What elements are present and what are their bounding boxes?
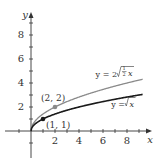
x-axis-arrow-icon [146, 129, 152, 134]
x-tick-label: 4 [76, 135, 82, 146]
x-axis-label: x [147, 134, 153, 145]
y-tick-label: 6 [18, 53, 24, 64]
x-tick-label: 6 [100, 135, 106, 146]
x-tick-label: 2 [52, 135, 58, 146]
point-lower-label: (1, 1) [46, 120, 70, 130]
svg-text:x: x [130, 100, 135, 109]
y-tick-label: 2 [18, 101, 24, 112]
curve-lower-label: y = x [110, 98, 135, 110]
y-axis-label: y [21, 9, 28, 20]
svg-text:x: x [128, 69, 133, 78]
y-tick-label: 4 [18, 77, 24, 88]
point-upper [53, 105, 58, 110]
curve-upper-label: y = 2 1 2 x [95, 65, 134, 79]
y-tick-label: 8 [18, 29, 24, 40]
chart: 2 4 6 8 2 4 6 8 x y (2, 2) (1, 1) y = 2 … [0, 0, 159, 164]
point-upper-label: (2, 2) [41, 93, 65, 103]
svg-text:y = 2: y = 2 [95, 70, 117, 79]
svg-text:2: 2 [122, 71, 125, 77]
point-lower [41, 117, 46, 122]
x-tick-label: 8 [124, 135, 130, 146]
y-axis-arrow-icon [29, 12, 34, 18]
svg-text:y =: y = [110, 100, 125, 109]
